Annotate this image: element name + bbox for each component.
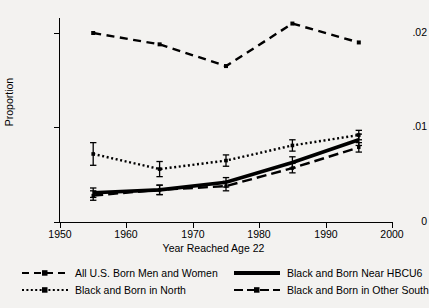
- legend: All U.S. Born Men and Women Black and Bo…: [22, 264, 414, 298]
- solid-thick-key-icon: [234, 267, 280, 279]
- long-dash-key-icon: [22, 267, 68, 279]
- dotted-key-icon: [22, 284, 68, 296]
- legend-label: Black and Born Near HBCU6: [287, 267, 422, 279]
- legend-item-north: Black and Born in North: [22, 284, 234, 296]
- legend-label: Black and Born in Other South: [287, 284, 429, 296]
- legend-row: Black and Born in North Black and Born i…: [22, 281, 414, 298]
- legend-label: Black and Born in North: [75, 284, 186, 296]
- legend-label: All U.S. Born Men and Women: [75, 267, 218, 279]
- dash-key-icon: [234, 284, 280, 296]
- legend-row: All U.S. Born Men and Women Black and Bo…: [22, 264, 414, 281]
- legend-item-all-us-born: All U.S. Born Men and Women: [22, 267, 234, 279]
- legend-item-other-south: Black and Born in Other South: [234, 284, 414, 296]
- legend-item-hbcu6: Black and Born Near HBCU6: [234, 267, 414, 279]
